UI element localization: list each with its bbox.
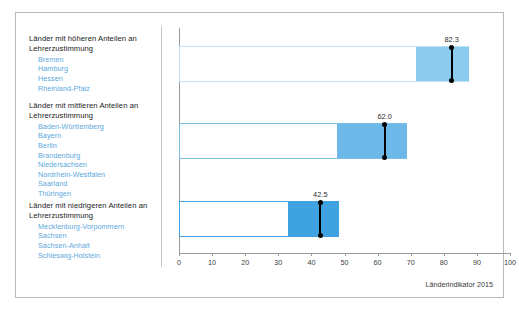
state-item: Thüringen [29,189,169,199]
x-tick-mark [345,253,346,256]
state-list-high: Bremen Hamburg Hessen Rheinland-Pfalz [29,55,169,93]
mean-dot-bottom [318,233,323,238]
mean-dot-bottom [382,155,387,160]
mean-value-label: 42.5 [313,190,327,199]
state-item: Nordrhein-Westfalen [29,170,169,180]
bar-fill-mid [337,124,406,158]
x-tick-label: 30 [274,258,282,267]
mean-line [319,202,321,236]
x-tick-label: 20 [241,258,249,267]
x-tick-label: 0 [177,258,181,267]
x-tick-label: 70 [407,258,415,267]
group-heading-high: Länder mit höheren Anteilen an Lehrerzus… [29,34,169,55]
x-tick-label: 90 [473,258,481,267]
mean-line [384,124,386,158]
mean-marker-low: 42.5 [319,202,321,236]
mean-line [451,47,453,81]
state-item: Brandenburg [29,151,169,161]
state-list-mid: Baden-Württemberg Bayern Berlin Brandenb… [29,122,169,199]
state-item: Rheinland-Pfalz [29,84,169,94]
mean-dot-bottom [449,78,454,83]
x-tick-mark [245,253,246,256]
state-item: Saarland [29,179,169,189]
group-block-mid: Länder mit mittleren Anteilen an Lehrerz… [29,101,169,199]
x-tick-label: 10 [208,258,216,267]
x-tick-mark [311,253,312,256]
x-tick-mark [278,253,279,256]
group-heading-low: Länder mit niedrigeren Anteilen an Lehre… [29,201,169,222]
x-tick-mark [411,253,412,256]
x-tick-mark [378,253,379,256]
mean-value-label: 82.3 [444,35,458,44]
chart-figure: Länder mit höheren Anteilen an Lehrerzus… [15,12,504,298]
mean-value-label: 62.0 [377,112,391,121]
state-list-low: Mecklenburg-Vorpommern Sachsen Sachsen-A… [29,222,169,260]
bar-fill-low [288,202,339,236]
state-item: Sachsen [29,231,169,241]
plot-inner: 82.3 62.0 [162,26,495,267]
x-tick-mark [510,253,511,256]
x-tick-mark [212,253,213,256]
state-item: Hessen [29,74,169,84]
x-tick-label: 60 [374,258,382,267]
state-item: Bremen [29,55,169,65]
plot-area: 82.3 62.0 [162,26,495,267]
source-note: Länderindikator 2015 [425,280,493,289]
group-block-low: Länder mit niedrigeren Anteilen an Lehre… [29,201,169,260]
group-heading-mid: Länder mit mittleren Anteilen an Lehrerz… [29,101,169,122]
state-item: Niedersachsen [29,160,169,170]
state-item: Schleswig-Holstein [29,251,169,261]
mean-dot-top [318,200,323,205]
state-item: Bayern [29,131,169,141]
state-item: Sachsen-Anhalt [29,241,169,251]
state-item: Hamburg [29,64,169,74]
x-tick-mark [179,253,180,256]
state-item: Baden-Württemberg [29,122,169,132]
mean-marker-mid: 62.0 [384,124,386,158]
mean-marker-high: 82.3 [451,47,453,81]
bar-fill-high [416,47,469,81]
x-tick-label: 50 [341,258,349,267]
x-tick-mark [444,253,445,256]
state-item: Berlin [29,141,169,151]
x-tick-mark [477,253,478,256]
state-item: Mecklenburg-Vorpommern [29,222,169,232]
x-tick-label: 80 [440,258,448,267]
x-tick-label: 100 [504,258,516,267]
group-block-high: Länder mit höheren Anteilen an Lehrerzus… [29,34,169,93]
group-label-column: Länder mit höheren Anteilen an Lehrerzus… [16,13,161,297]
x-tick-label: 40 [307,258,315,267]
